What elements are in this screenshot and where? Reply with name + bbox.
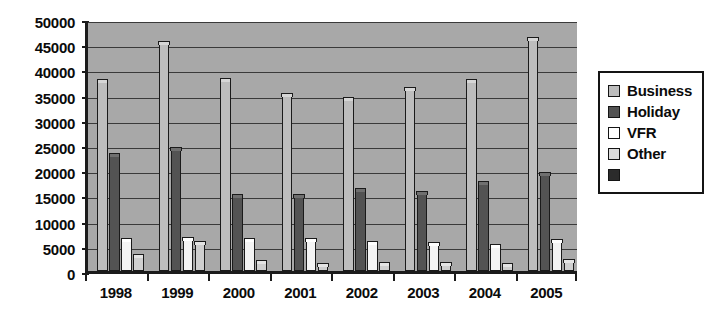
bar-top-face bbox=[109, 153, 121, 157]
bar bbox=[528, 40, 539, 271]
bar-top-face bbox=[367, 241, 379, 245]
legend-item-label: Holiday bbox=[627, 104, 680, 119]
bar-top-face bbox=[305, 238, 317, 242]
y-axis-tick-label: 0 bbox=[67, 267, 75, 282]
bar-top-face bbox=[281, 93, 293, 97]
x-axis-tick-label: 2004 bbox=[469, 285, 501, 300]
x-axis-tick-mark bbox=[454, 274, 456, 281]
bar bbox=[429, 245, 440, 271]
bar bbox=[478, 184, 489, 271]
bar bbox=[109, 156, 120, 271]
legend-swatch-icon bbox=[608, 169, 620, 181]
legend-swatch-icon bbox=[608, 148, 620, 160]
x-axis-tick-label: 1998 bbox=[100, 285, 132, 300]
bar-top-face bbox=[232, 194, 244, 198]
bar bbox=[318, 266, 329, 271]
bar bbox=[121, 241, 132, 271]
bar bbox=[220, 81, 231, 272]
x-axis-tick-label: 2001 bbox=[284, 285, 316, 300]
bar-top-face bbox=[293, 194, 305, 198]
bar bbox=[294, 197, 305, 271]
x-axis-tick-label: 1999 bbox=[161, 285, 193, 300]
chart-legend: BusinessHolidayVFROther bbox=[598, 71, 704, 194]
bar-top-face bbox=[244, 238, 256, 242]
legend-item[interactable]: Other bbox=[608, 143, 692, 164]
bar-top-face bbox=[478, 181, 490, 185]
legend-item-label: Business bbox=[627, 83, 692, 98]
bar bbox=[564, 262, 575, 271]
bar bbox=[540, 175, 551, 271]
legend-item[interactable]: VFR bbox=[608, 122, 692, 143]
bar bbox=[282, 96, 293, 271]
bar-top-face bbox=[379, 262, 391, 266]
bar bbox=[466, 82, 477, 271]
bar bbox=[133, 257, 144, 271]
bar bbox=[502, 266, 513, 271]
bar-top-face bbox=[158, 41, 170, 45]
plot-inner bbox=[88, 22, 577, 271]
bar bbox=[343, 100, 354, 271]
bar bbox=[159, 44, 170, 271]
bar-top-face bbox=[428, 242, 440, 246]
legend-item[interactable]: Business bbox=[608, 80, 692, 101]
bar-group bbox=[211, 22, 273, 271]
y-axis-tick-label: 25000 bbox=[35, 141, 75, 156]
y-axis-tick-label: 5000 bbox=[43, 241, 75, 256]
bar-top-face bbox=[466, 79, 478, 83]
bar-top-face bbox=[256, 260, 268, 264]
bar-group bbox=[519, 22, 581, 271]
legend-swatch-icon bbox=[608, 127, 620, 139]
bar bbox=[306, 241, 317, 271]
bar-top-face bbox=[502, 263, 514, 267]
bar bbox=[379, 265, 390, 271]
x-axis-tick-mark bbox=[516, 274, 518, 281]
bar bbox=[97, 82, 108, 271]
bar bbox=[417, 194, 428, 271]
bar-top-face bbox=[170, 147, 182, 151]
bar bbox=[195, 244, 206, 271]
legend-item[interactable] bbox=[608, 164, 692, 185]
bar-top-face bbox=[220, 78, 232, 82]
bar-top-face bbox=[194, 241, 206, 245]
bar bbox=[183, 240, 194, 271]
bar-group bbox=[273, 22, 335, 271]
x-axis-tick-label: 2000 bbox=[223, 285, 255, 300]
bar-group bbox=[334, 22, 396, 271]
y-axis-tick-label: 30000 bbox=[35, 115, 75, 130]
y-axis-tick-label: 45000 bbox=[35, 40, 75, 55]
bar-top-face bbox=[490, 244, 502, 248]
bar-group bbox=[88, 22, 150, 271]
legend-item-label: VFR bbox=[627, 125, 656, 140]
bar bbox=[552, 242, 563, 271]
bar-group bbox=[457, 22, 519, 271]
bar-top-face bbox=[355, 188, 367, 192]
bar bbox=[171, 150, 182, 271]
bar bbox=[256, 263, 267, 271]
x-axis-tick-mark bbox=[85, 274, 87, 281]
bar-top-face bbox=[404, 87, 416, 91]
bar-top-face bbox=[317, 263, 329, 267]
bar-top-face bbox=[551, 239, 563, 243]
bar-top-face bbox=[527, 37, 539, 41]
bar-top-face bbox=[539, 172, 551, 176]
y-axis-tick-label: 15000 bbox=[35, 191, 75, 206]
bar-top-face bbox=[563, 259, 575, 263]
y-axis-tick-label: 35000 bbox=[35, 90, 75, 105]
x-axis-tick-mark bbox=[393, 274, 395, 281]
x-axis-tick-mark bbox=[575, 274, 577, 281]
bar bbox=[244, 241, 255, 271]
bar-top-face bbox=[182, 237, 194, 241]
bar bbox=[232, 197, 243, 271]
bar bbox=[490, 247, 501, 271]
legend-swatch-icon bbox=[608, 106, 620, 118]
legend-item[interactable]: Holiday bbox=[608, 101, 692, 122]
y-axis-tick-label: 10000 bbox=[35, 216, 75, 231]
x-axis: 19981999200020012002200320042005 bbox=[85, 274, 577, 315]
x-axis-tick-label: 2003 bbox=[407, 285, 439, 300]
bar-chart: 0500010000150002000025000300003500040000… bbox=[0, 0, 712, 315]
bar bbox=[355, 191, 366, 271]
x-axis-tick-mark bbox=[270, 274, 272, 281]
bar-top-face bbox=[416, 191, 428, 195]
bar bbox=[405, 90, 416, 271]
legend-swatch-icon bbox=[608, 85, 620, 97]
